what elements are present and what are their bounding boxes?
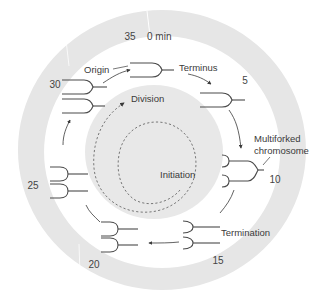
label-origin: Origin [84, 64, 109, 75]
chromosome-5min [200, 93, 245, 107]
label-division: Division [131, 93, 164, 104]
label-chromosome: chromosome [254, 145, 309, 156]
arrow-15-to-20 [149, 242, 179, 243]
tick-5: 5 [242, 75, 248, 86]
chromosome-15min [183, 221, 220, 249]
cell-disc [85, 85, 223, 219]
chromosome-0min [130, 63, 174, 77]
tick-0min: 0 min [147, 31, 171, 42]
chromosome-10min-multiforked [222, 155, 264, 187]
label-multiforked: Multiforked [254, 133, 300, 144]
tick-10: 10 [269, 174, 281, 185]
tick-25: 25 [27, 180, 39, 191]
label-initiation: Initiation [160, 169, 195, 180]
leader-origin [113, 66, 128, 69]
cell-cycle-diagram: 0 min 5 10 15 20 25 30 35 Origin Terminu… [0, 0, 324, 299]
arrow-terminus-to-5 [188, 74, 211, 84]
tick-30: 30 [49, 79, 61, 90]
tick-15: 15 [212, 255, 224, 266]
leader-multiforked [263, 157, 270, 165]
arrow-20-to-25 [86, 205, 100, 222]
tick-35: 35 [124, 31, 136, 42]
chromosome-20min [101, 222, 138, 252]
arrow-5-to-10 [229, 110, 241, 148]
arrow-25-to-30 [63, 120, 70, 145]
arrow-10-to-15 [220, 190, 234, 213]
tick-20: 20 [88, 259, 100, 270]
chromosome-30min [62, 80, 107, 113]
label-terminus: Terminus [179, 62, 218, 73]
label-termination: Termination [221, 227, 270, 238]
chromosome-25min [50, 167, 88, 198]
